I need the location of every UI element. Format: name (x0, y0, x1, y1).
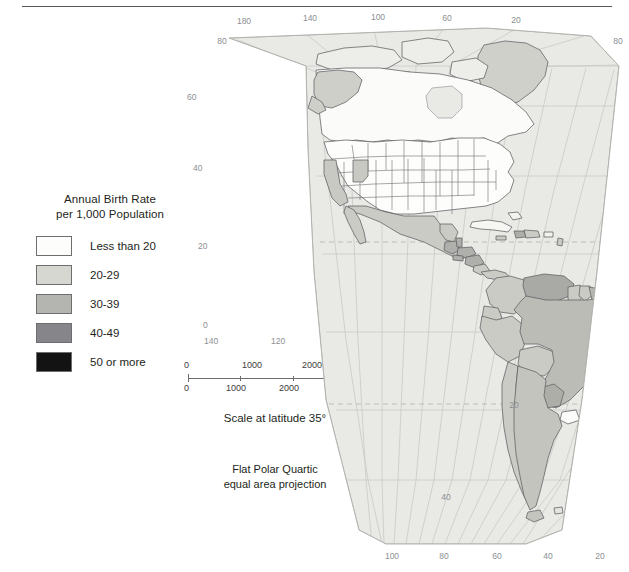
legend-swatch-30-39 (36, 294, 72, 314)
legend-item-20-29[interactable]: 20-29 (18, 264, 198, 286)
lon-label-bottom-80: 80 (439, 551, 449, 561)
legend-swatch-50-plus (36, 352, 72, 372)
lon-label-bottom-40: 40 (543, 551, 553, 561)
lon-label-180: 180 (237, 16, 251, 26)
scale-mi-0: 0 (184, 360, 189, 370)
legend-label-40-49: 40-49 (90, 327, 119, 339)
legend-title-line2: per 1,000 Population (22, 207, 198, 222)
legend-swatch-lt20 (36, 236, 72, 256)
area-lesser-antilles[interactable] (557, 238, 563, 246)
legend-swatch-20-29 (36, 265, 72, 285)
legend-title-line1: Annual Birth Rate (22, 192, 198, 207)
scale-tick-0 (188, 374, 189, 382)
map-canvas[interactable]: 180 140 100 60 20 80 60 80 100 80 60 40 … (196, 10, 629, 572)
area-utah[interactable] (353, 160, 368, 182)
area-belize[interactable] (456, 238, 462, 247)
lon-label-20: 20 (511, 15, 521, 25)
lat-label-left-80: 80 (217, 36, 227, 46)
lon-label-140: 140 (303, 13, 317, 23)
map-legend: Annual Birth Rate per 1,000 Population L… (18, 192, 198, 380)
legend-label-20-29: 20-29 (90, 269, 119, 281)
area-jamaica[interactable] (496, 236, 506, 240)
lat-label-right-40: 40 (441, 492, 451, 502)
header-divider (22, 6, 612, 7)
legend-item-lt20[interactable]: Less than 20 (18, 235, 198, 257)
map-page: Annual Birth Rate per 1,000 Population L… (0, 0, 629, 572)
lat-label-right-80: 80 (613, 36, 623, 46)
lon-label-bottom-60: 60 (492, 551, 502, 561)
legend-label-lt20: Less than 20 (90, 240, 156, 252)
lon-label-bottom-20: 20 (595, 551, 605, 561)
lon-label-bottom-100: 100 (385, 551, 399, 561)
scale-km-0: 0 (184, 383, 189, 393)
legend-item-30-39[interactable]: 30-39 (18, 293, 198, 315)
legend-item-40-49[interactable]: 40-49 (18, 322, 198, 344)
legend-label-30-39: 30-39 (90, 298, 119, 310)
lon-label-60: 60 (442, 13, 452, 23)
lon-label-100: 100 (371, 12, 385, 22)
area-el-salvador[interactable] (453, 255, 463, 261)
area-puerto-rico[interactable] (544, 232, 553, 237)
legend-item-50-plus[interactable]: 50 or more (18, 351, 198, 373)
area-dominican-republic[interactable] (524, 230, 540, 238)
legend-label-50-plus: 50 or more (90, 356, 146, 368)
legend-swatch-40-49 (36, 323, 72, 343)
area-falklands[interactable] (554, 507, 563, 514)
lat-label-right-20: 20 (509, 400, 519, 410)
legend-title: Annual Birth Rate per 1,000 Population (18, 192, 198, 222)
legend-class-list: Less than 20 20-29 30-39 40-49 50 or mor… (18, 235, 198, 373)
